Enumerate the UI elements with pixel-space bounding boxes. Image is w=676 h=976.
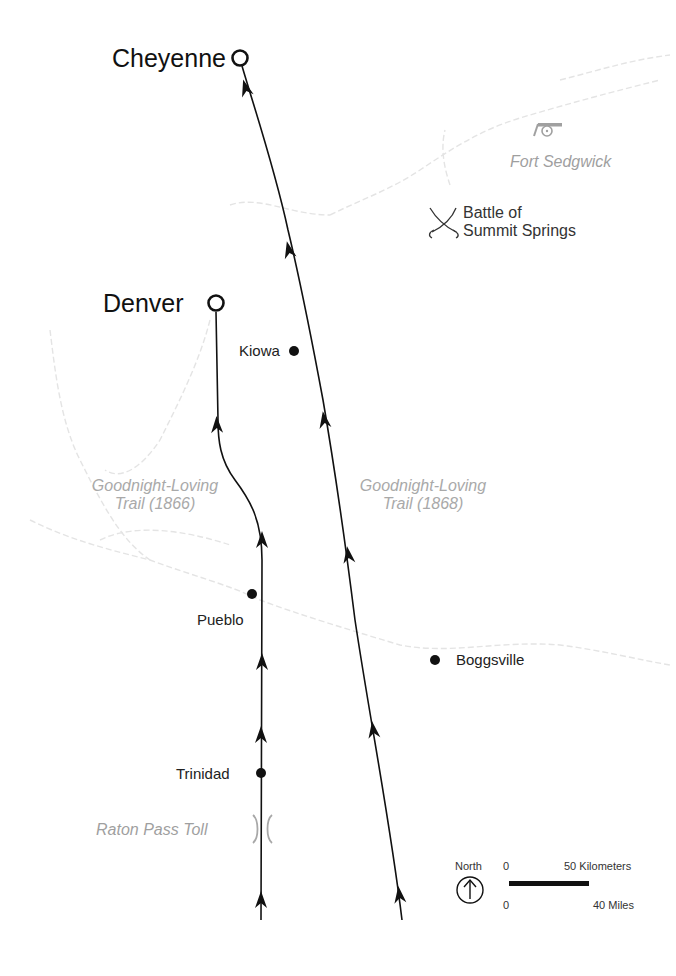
scale-km-end: 50 Kilometers <box>564 860 631 873</box>
scale-km-start: 0 <box>503 860 509 873</box>
trinidad-marker <box>256 768 266 778</box>
boggsville-marker <box>430 655 440 665</box>
trail-1868-label-line2: Trail (1868) <box>346 495 500 513</box>
boundary-west-inner <box>105 320 210 474</box>
crossed-sabers-icon <box>430 208 459 238</box>
boundary-east <box>560 55 670 80</box>
trinidad-label: Trinidad <box>176 765 230 782</box>
pueblo-marker <box>247 589 257 599</box>
battle-label-line2: Summit Springs <box>463 222 576 240</box>
raton-pass-label: Raton Pass Toll <box>96 821 207 839</box>
scale-mi-start: 0 <box>503 899 509 912</box>
river-south-platte-west <box>230 202 330 215</box>
background-features <box>30 55 670 665</box>
denver-label: Denver <box>103 289 184 318</box>
cheyenne-label: Cheyenne <box>112 44 226 73</box>
kiowa-label: Kiowa <box>239 342 280 359</box>
river-south-platte <box>330 80 660 215</box>
trail-1866-label: Goodnight-Loving Trail (1866) <box>78 477 232 514</box>
cannon-icon <box>534 123 562 136</box>
scale-bar <box>509 881 589 886</box>
boundary-west <box>50 330 150 560</box>
river-arkansas <box>30 520 670 665</box>
mountain-pass-icon <box>253 815 272 843</box>
fort-sedgwick-label: Fort Sedgwick <box>510 153 611 171</box>
boggsville-label: Boggsville <box>456 651 524 668</box>
north-arrow-icon <box>457 877 483 903</box>
denver-marker <box>209 296 224 311</box>
trail-1866-label-line1: Goodnight-Loving <box>78 477 232 495</box>
pueblo-label: Pueblo <box>197 611 244 628</box>
north-label: North <box>455 860 482 873</box>
scale-mi-end: 40 Miles <box>593 899 634 912</box>
kiowa-marker <box>289 346 299 356</box>
trail-1866-label-line2: Trail (1866) <box>78 495 232 513</box>
river-tributary-north <box>443 130 450 185</box>
battle-label: Battle of Summit Springs <box>463 204 576 241</box>
trail-1868-label-line1: Goodnight-Loving <box>346 477 500 495</box>
battle-label-line1: Battle of <box>463 204 576 222</box>
trail-1868-label: Goodnight-Loving Trail (1868) <box>346 477 500 514</box>
river-arkansas-branch <box>100 530 230 545</box>
cheyenne-marker <box>233 51 248 66</box>
